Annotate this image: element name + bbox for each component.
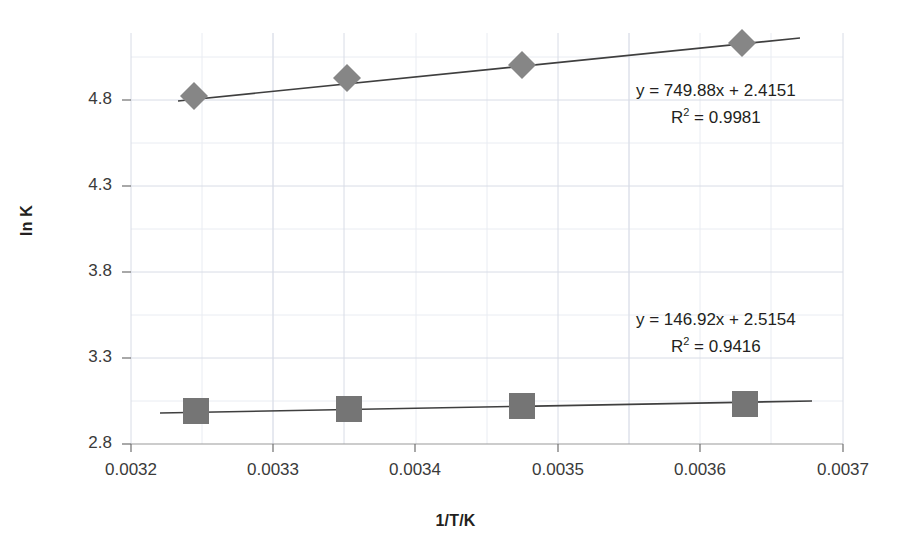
x-tick-label-0.0035: 0.0035 — [513, 460, 603, 480]
trendline-equation-series-2: y = 146.92x + 2.5154 R2 = 0.9416 — [636, 307, 796, 360]
y-tick-label-4.3: 4.3 — [52, 175, 112, 195]
trendline-series-2 — [160, 401, 812, 413]
data-point — [508, 51, 536, 79]
y-tick-label-2.8: 2.8 — [52, 433, 112, 453]
r-squared-series-2: R2 = 0.9416 — [636, 333, 796, 360]
r-squared-label-series-2: R — [671, 337, 683, 356]
data-point — [732, 391, 758, 417]
y-tick-label-4.8: 4.8 — [52, 89, 112, 109]
equation-line-series-1: y = 749.88x + 2.4151 — [636, 78, 796, 104]
y-tick-label-3.8: 3.8 — [52, 261, 112, 281]
y-axis-ticks — [122, 100, 131, 444]
y-tick-label-3.3: 3.3 — [52, 347, 112, 367]
r-squared-label-series-1: R — [671, 108, 683, 127]
r-squared-series-1: R2 = 0.9981 — [636, 104, 796, 131]
x-tick-label-0.0036: 0.0036 — [655, 460, 745, 480]
equation-line-series-2: y = 146.92x + 2.5154 — [636, 307, 796, 333]
data-point — [336, 396, 362, 422]
data-point — [183, 398, 209, 424]
x-tick-label-0.0034: 0.0034 — [370, 460, 460, 480]
x-axis-ticks — [131, 444, 843, 452]
x-tick-label-0.0033: 0.0033 — [228, 460, 318, 480]
data-point — [728, 29, 756, 57]
x-tick-label-0.0032: 0.0032 — [86, 460, 176, 480]
trendline-equation-series-1: y = 749.88x + 2.4151 R2 = 0.9981 — [636, 78, 796, 131]
data-point — [180, 82, 208, 110]
r-squared-value-series-1: = 0.9981 — [689, 108, 760, 127]
x-tick-label-0.0037: 0.0037 — [798, 460, 888, 480]
data-point — [509, 393, 535, 419]
y-axis-title: ln K — [18, 205, 36, 236]
chart-container: 4.8 4.3 3.8 3.3 2.8 0.0032 0.0033 0.0034… — [0, 0, 911, 554]
data-point — [333, 64, 361, 92]
x-axis-title: 1/T/K — [0, 512, 911, 530]
r-squared-value-series-2: = 0.9416 — [689, 337, 760, 356]
